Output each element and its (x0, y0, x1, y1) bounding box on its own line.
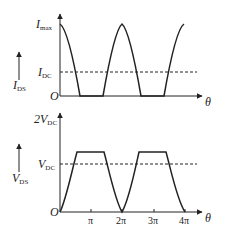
idc-label: IDC (37, 65, 52, 80)
bottom-graph: 2VDC VDC O θ π 2π 3π 4π VDS (12, 112, 211, 226)
2vdc-label: 2VDC (34, 112, 57, 127)
bottom-voltage-curve (60, 152, 185, 212)
top-theta-label: θ (205, 95, 211, 109)
top-graph: Imax IDC O θ IDS (12, 14, 211, 109)
waveform-diagram: Imax IDC O θ IDS 2VDC VDC O θ π 2π 3π 4π… (0, 0, 242, 236)
vds-label: VDS (12, 171, 28, 186)
bottom-origin-label: O (50, 205, 59, 219)
tick-label-4pi: 4π (179, 215, 189, 226)
tick-label-2pi: 2π (116, 215, 126, 226)
top-current-curve (60, 24, 184, 96)
tick-label-pi: π (88, 215, 93, 226)
ids-label: IDS (12, 78, 26, 93)
imax-label: Imax (35, 17, 53, 32)
vdc-label: VDC (38, 157, 55, 172)
bottom-theta-label: θ (205, 211, 211, 225)
tick-label-3pi: 3π (148, 215, 158, 226)
top-origin-label: O (50, 89, 59, 103)
